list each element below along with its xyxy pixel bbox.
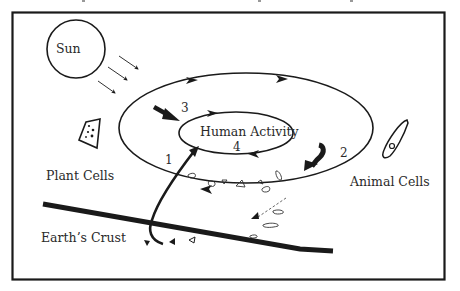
debris-fragments-icon <box>188 171 283 238</box>
step-2-thick-arrow <box>304 145 323 171</box>
step-3-label: 3 <box>181 101 189 115</box>
sun: Sun <box>47 20 105 78</box>
animal-cell-icon <box>383 120 408 158</box>
title-cutoff <box>82 0 353 2</box>
crust-fragments-icon <box>144 237 195 246</box>
animal-cells-label: Animal Cells <box>349 174 430 189</box>
sunlight-arrows-icon <box>98 56 138 93</box>
step-1-label: 1 <box>165 153 173 167</box>
earths-crust-label: Earth’s Crust <box>41 230 126 245</box>
carbon-cycle-diagram: Sun Plant Cells Animal Cells Human Activ… <box>0 0 460 291</box>
decay-dashed-arrow <box>251 198 286 219</box>
sun-label: Sun <box>56 41 81 56</box>
plant-cell-icon <box>79 119 100 148</box>
step-4-label: 4 <box>233 140 241 154</box>
step-3-thick-arrow <box>154 107 180 121</box>
step-2-label: 2 <box>340 146 348 160</box>
human-activity-label: Human Activity <box>200 124 299 139</box>
plant-cells-label: Plant Cells <box>46 168 114 183</box>
